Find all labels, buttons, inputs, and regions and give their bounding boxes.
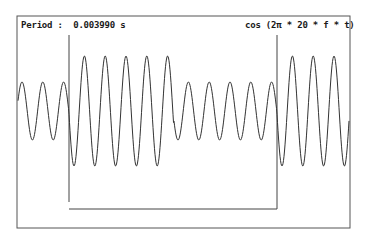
waveform-plot [0,0,366,239]
period-label: Period : 0.003990 s [21,20,125,30]
plot-frame [17,16,350,228]
formula-label: cos (2π * 20 * f * t) [245,20,355,30]
cosine-waveform [18,56,349,166]
